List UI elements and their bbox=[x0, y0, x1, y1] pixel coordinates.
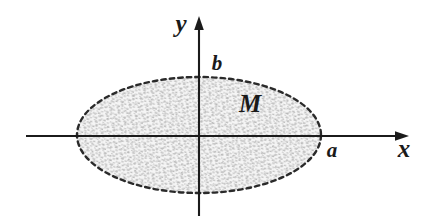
y-axis-arrowhead bbox=[194, 16, 204, 30]
y-axis-label: y bbox=[172, 10, 187, 37]
ellipse-region-diagram: y x b a M bbox=[0, 0, 427, 220]
semi-minor-axis-label: b bbox=[212, 51, 223, 75]
x-axis-label: x bbox=[397, 135, 411, 162]
figure-canvas: y x b a M bbox=[0, 0, 427, 220]
semi-major-axis-label: a bbox=[327, 138, 338, 162]
region-label: M bbox=[238, 90, 262, 117]
